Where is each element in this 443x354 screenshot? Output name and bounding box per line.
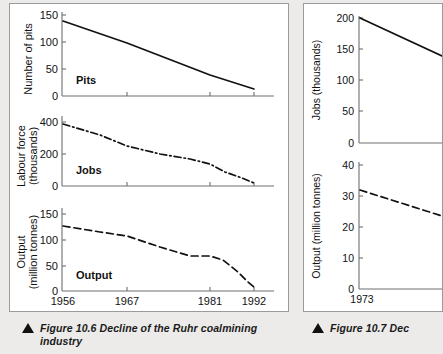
jobs-10-7-ytick-50: 50 bbox=[342, 105, 354, 117]
output-10-7-y-axis-title: Output (million tonnes) bbox=[310, 173, 322, 279]
panel-output: Output (million tonnes) 150 100 50 0 Out… bbox=[15, 208, 274, 307]
figure-10-7-caption: Figure 10.7 Dec bbox=[312, 322, 442, 335]
figure-10-6-panel: Number of pits 150 100 50 0 Pits Labour … bbox=[9, 3, 289, 312]
jobs-ytick-400: 400 bbox=[40, 116, 58, 128]
pits-series-label: Pits bbox=[76, 74, 96, 86]
jobs-10-7-ytick-200: 200 bbox=[336, 12, 354, 24]
pits-ytick-150: 150 bbox=[40, 9, 58, 21]
pits-ytick-50: 50 bbox=[46, 63, 58, 75]
xtick-1973: 1973 bbox=[350, 293, 374, 305]
figure-10-7-chart: Jobs (thousands) 200 150 100 50 0 Output… bbox=[304, 4, 442, 311]
output-10-7-data-line bbox=[360, 190, 442, 216]
jobs-ytick-200: 200 bbox=[40, 148, 58, 160]
output-ytick-100: 100 bbox=[40, 234, 58, 246]
pits-ytick-0: 0 bbox=[52, 90, 58, 102]
figure-10-6-caption: Figure 10.6 Decline of the Ruhr coalmini… bbox=[22, 322, 280, 348]
xtick-1992: 1992 bbox=[242, 295, 266, 307]
figure-10-7-panel: Jobs (thousands) 200 150 100 50 0 Output… bbox=[303, 3, 443, 312]
output-10-7-ytick-10: 10 bbox=[342, 252, 354, 264]
jobs-10-7-ytick-150: 150 bbox=[336, 43, 354, 55]
output-series-label: Output bbox=[76, 269, 112, 281]
figure-10-7-caption-text: Figure 10.7 Dec bbox=[330, 322, 409, 335]
output-ytick-150: 150 bbox=[40, 208, 58, 220]
output-y-axis-title-line1: Output bbox=[15, 235, 27, 268]
output-ytick-50: 50 bbox=[46, 260, 58, 272]
panel-jobs: Labour force (thousands) 400 200 0 Jobs bbox=[15, 116, 274, 192]
jobs-y-axis-title-line2: (thousands) bbox=[27, 127, 39, 185]
jobs-10-7-y-axis-title: Jobs (thousands) bbox=[310, 40, 322, 121]
output-10-7-ytick-20: 20 bbox=[342, 221, 354, 233]
output-10-7-ytick-30: 30 bbox=[342, 190, 354, 202]
panel-output-10-7: Output (million tonnes) 40 30 20 10 0 19… bbox=[310, 159, 442, 305]
jobs-ytick-0: 0 bbox=[52, 180, 58, 192]
jobs-10-7-ytick-100: 100 bbox=[336, 74, 354, 86]
panel-pits: Number of pits 150 100 50 0 Pits bbox=[22, 9, 274, 102]
jobs-10-7-ytick-0: 0 bbox=[348, 137, 354, 149]
jobs-y-axis-title-line1: Labour force bbox=[15, 125, 27, 187]
triangle-bullet-icon bbox=[22, 323, 34, 333]
triangle-bullet-icon bbox=[312, 323, 324, 333]
output-y-axis-title-line2: (million tonnes) bbox=[27, 215, 39, 290]
jobs-series-label: Jobs bbox=[76, 164, 102, 176]
pits-y-axis-title: Number of pits bbox=[22, 23, 34, 95]
panel-jobs-10-7: Jobs (thousands) 200 150 100 50 0 bbox=[310, 12, 442, 149]
xtick-1981: 1981 bbox=[198, 295, 222, 307]
figure-10-6-chart: Number of pits 150 100 50 0 Pits Labour … bbox=[10, 4, 288, 311]
figure-10-6-caption-text: Figure 10.6 Decline of the Ruhr coalmini… bbox=[40, 322, 280, 348]
output-10-7-ytick-40: 40 bbox=[342, 159, 354, 171]
jobs-10-7-data-line bbox=[360, 18, 442, 56]
pits-ytick-100: 100 bbox=[40, 36, 58, 48]
xtick-1956: 1956 bbox=[51, 295, 75, 307]
xtick-1967: 1967 bbox=[115, 295, 139, 307]
